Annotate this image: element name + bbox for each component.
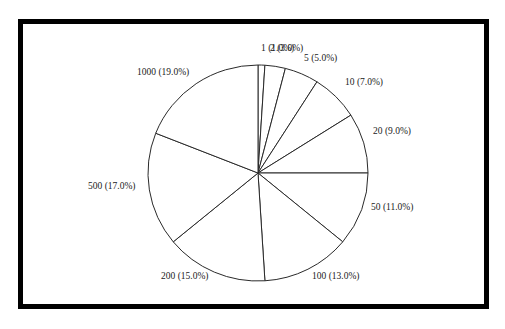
slice-label-2: 2 (3.0%): [270, 43, 303, 54]
slice-label-500: 500 (17.0%): [88, 181, 136, 192]
slice-label-10: 10 (7.0%): [345, 77, 383, 88]
slice-label-1000: 1000 (19.0%): [137, 67, 189, 78]
slice-label-100: 100 (13.0%): [312, 271, 360, 282]
pie-chart: 1 (1.0%) 2 (3.0%) 5 (5.0%) 10 (7.0%) 20 …: [0, 0, 505, 329]
slice-label-20: 20 (9.0%): [373, 126, 411, 137]
slice-label-50: 50 (11.0%): [371, 202, 413, 213]
pie-slices: [148, 65, 368, 281]
slice-label-5: 5 (5.0%): [304, 53, 337, 64]
slice-label-200: 200 (15.0%): [161, 271, 209, 282]
